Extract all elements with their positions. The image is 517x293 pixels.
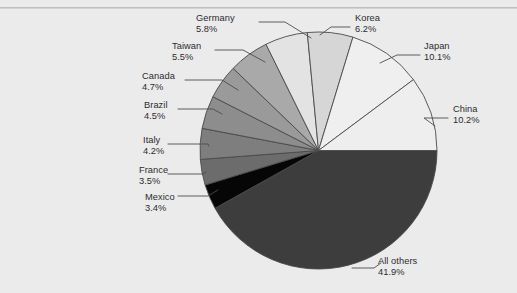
slice-label-japan: Japan 10.1% (424, 41, 451, 64)
slice-label-japan-percent: 10.1% (424, 52, 451, 63)
slice-label-france-name: France (139, 165, 168, 176)
slice-label-china: China 10.2% (453, 104, 480, 127)
slice-label-taiwan-name: Taiwan (172, 41, 201, 52)
slice-label-germany-name: Germany (196, 13, 235, 24)
slice-label-china-name: China (453, 104, 480, 115)
pie-slices-group (200, 32, 437, 269)
slice-label-mexico: Mexico 3.4% (145, 192, 175, 215)
slice-label-germany: Germany 5.8% (196, 13, 235, 36)
slice-label-france-percent: 3.5% (139, 176, 168, 187)
slice-label-germany-percent: 5.8% (196, 24, 235, 35)
slice-label-canada: Canada 4.7% (142, 71, 175, 94)
slice-label-canada-name: Canada (142, 71, 175, 82)
slice-label-china-percent: 10.2% (453, 115, 480, 126)
slice-label-allothers-percent: 41.9% (378, 267, 417, 278)
slice-label-brazil: Brazil 4.5% (144, 100, 168, 123)
slice-label-korea-percent: 6.2% (355, 24, 380, 35)
pie-chart-figure: Germany 5.8% Korea 6.2% Japan 10.1% Chin… (0, 0, 517, 293)
slice-label-france: France 3.5% (139, 165, 168, 188)
slice-label-italy-percent: 4.2% (143, 146, 164, 157)
slice-label-mexico-percent: 3.4% (145, 203, 175, 214)
slice-label-italy: Italy 4.2% (143, 135, 164, 158)
slice-label-brazil-percent: 4.5% (144, 111, 168, 122)
slice-label-allothers: All others 41.9% (378, 256, 417, 279)
slice-label-canada-percent: 4.7% (142, 82, 175, 93)
slice-label-brazil-name: Brazil (144, 100, 168, 111)
slice-label-mexico-name: Mexico (145, 192, 175, 203)
slice-label-taiwan: Taiwan 5.5% (172, 41, 201, 64)
slice-label-japan-name: Japan (424, 41, 451, 52)
leader-line-france (168, 172, 206, 174)
slice-label-korea: Korea 6.2% (355, 13, 380, 36)
slice-label-italy-name: Italy (143, 135, 164, 146)
slice-label-korea-name: Korea (355, 13, 380, 24)
slice-label-taiwan-percent: 5.5% (172, 52, 201, 63)
slice-label-allothers-name: All others (378, 256, 417, 267)
leader-line-allothers (352, 263, 381, 268)
